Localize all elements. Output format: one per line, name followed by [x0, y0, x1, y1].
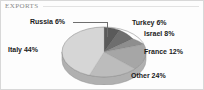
- pie-label-turkey: Turkey 6%: [132, 19, 167, 27]
- russia-leader-line-vertical: [107, 22, 108, 37]
- pie-label-france: France 12%: [144, 48, 183, 56]
- pie-label-israel: Israel 8%: [144, 30, 174, 38]
- exports-pie-chart-figure: EXPORTS: [0, 0, 204, 90]
- page-title: EXPORTS: [5, 2, 39, 10]
- pie-label-russia: Russia 6%: [30, 18, 65, 26]
- pie-label-italy: Italy 44%: [8, 46, 38, 54]
- figure-header: EXPORTS: [1, 1, 203, 12]
- pie-label-other: Other 24%: [131, 72, 166, 80]
- header-divider: [43, 6, 199, 7]
- russia-leader-line: [73, 22, 108, 23]
